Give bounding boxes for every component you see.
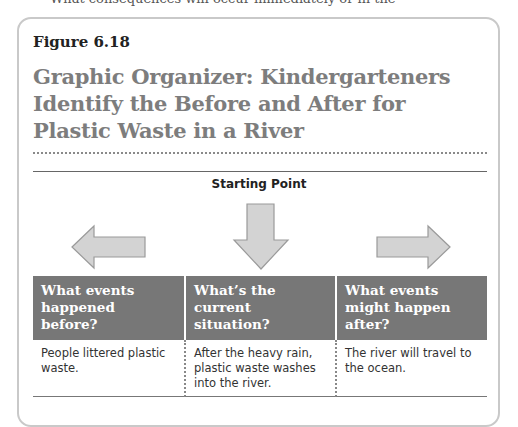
cell-current: After the heavy rain, plastic waste wash… (184, 340, 335, 397)
arrow-down-icon (232, 202, 290, 272)
organizer-table: What events happened before? What’s the … (33, 276, 487, 397)
solid-divider (33, 171, 487, 172)
figure-label: Figure 6.18 (33, 33, 130, 51)
dotted-divider (33, 152, 487, 154)
cell-after: The river will travel to the ocean. (335, 340, 487, 397)
column-header-current: What’s the current situation? (184, 276, 335, 340)
arrow-left-icon (70, 224, 148, 270)
arrow-right-icon (374, 224, 452, 270)
figure-title: Graphic Organizer: Kindergarteners Ident… (33, 63, 483, 144)
starting-point-label: Starting Point (0, 177, 518, 191)
column-header-before: What events happened before? (33, 276, 184, 340)
cut-off-body-text: What consequences will occur immediately… (50, 0, 395, 6)
cell-before: People littered plastic waste. (33, 340, 184, 397)
column-header-after: What events might happen after? (335, 276, 487, 340)
